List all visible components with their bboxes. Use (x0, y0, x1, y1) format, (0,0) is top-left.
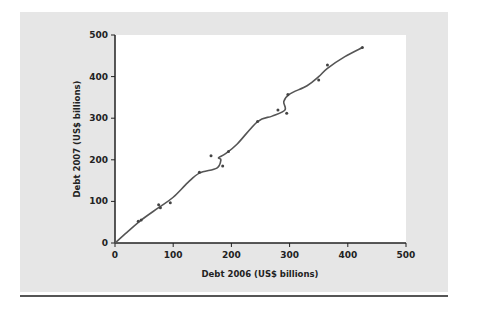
x-axis-label: Debt 2006 (US$ billions) (202, 269, 319, 279)
y-tick-label: 300 (89, 113, 108, 123)
data-point (159, 206, 162, 209)
data-point (227, 150, 230, 153)
y-tick-label: 500 (89, 30, 108, 40)
data-point (221, 165, 224, 168)
y-tick-label: 0 (102, 238, 108, 248)
data-point (326, 63, 329, 66)
data-point (361, 46, 364, 49)
data-point (285, 112, 288, 115)
data-point (137, 220, 140, 223)
x-tick-label: 300 (280, 250, 299, 260)
data-point (140, 219, 143, 222)
data-point (169, 201, 172, 204)
y-tick-label: 200 (89, 155, 108, 165)
scatter-chart: 01002003004005000100200300400500 Debt 20… (0, 0, 480, 316)
y-tick-label: 400 (89, 72, 108, 82)
x-tick-label: 500 (397, 250, 416, 260)
data-point (286, 93, 289, 96)
x-tick-label: 200 (222, 250, 241, 260)
y-tick-label: 100 (89, 196, 108, 206)
data-point (210, 154, 213, 157)
data-point (276, 108, 279, 111)
x-tick-label: 0 (112, 250, 118, 260)
x-tick-label: 100 (164, 250, 183, 260)
data-point (157, 203, 160, 206)
data-point (317, 78, 320, 81)
data-point (198, 171, 201, 174)
y-axis-label: Debt 2007 (US$ billions) (72, 80, 82, 197)
data-point (256, 120, 259, 123)
x-tick-label: 400 (338, 250, 357, 260)
plot-area (115, 35, 406, 243)
